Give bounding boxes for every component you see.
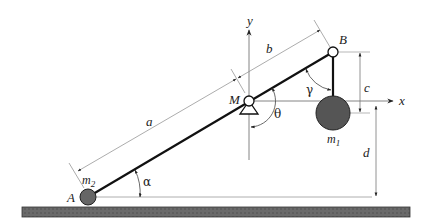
label-y-axis: y	[245, 13, 253, 28]
alpha-arc	[135, 170, 140, 197]
label-a-point: A	[66, 190, 75, 205]
label-length-c: c	[364, 80, 370, 95]
label-length-b: b	[266, 41, 273, 56]
label-angle-alpha: α	[143, 175, 151, 189]
label-m-point: M	[228, 92, 241, 107]
mass-m1	[316, 96, 350, 130]
label-length-a: a	[146, 114, 153, 129]
ground	[22, 207, 410, 217]
extension-line-b	[314, 20, 330, 47]
joint-b	[328, 47, 338, 57]
label-angle-gamma: γ	[306, 83, 313, 97]
lever-rod	[88, 52, 333, 197]
mechanism-diagram: A B M y x a b c d α θ γ m1 m2	[0, 0, 427, 224]
label-mass-m1: m1	[327, 132, 340, 148]
label-mass-m2: m2	[82, 173, 96, 189]
label-angle-theta: θ	[274, 107, 281, 121]
label-b-point: B	[339, 32, 347, 47]
dimension-b-line	[238, 30, 320, 78]
mass-m2	[80, 189, 96, 205]
label-x-axis: x	[398, 93, 405, 108]
pivot-m	[244, 96, 254, 106]
label-length-d: d	[363, 145, 370, 160]
